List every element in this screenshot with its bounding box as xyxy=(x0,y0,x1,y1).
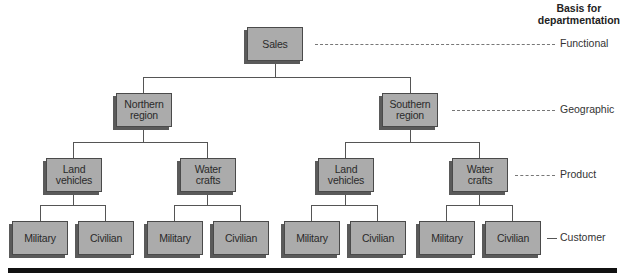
node-land-vehicles: Landvehicles xyxy=(46,158,102,192)
node-label: Civilian xyxy=(225,233,257,244)
node-label: Sales xyxy=(262,39,287,50)
node-military: Military xyxy=(419,221,475,255)
connector xyxy=(512,205,513,221)
connector xyxy=(479,142,480,158)
node-label: Civilian xyxy=(497,233,529,244)
node-military: Military xyxy=(284,221,340,255)
connector xyxy=(174,205,241,206)
node-civilian: Civilian xyxy=(350,221,406,255)
connector xyxy=(207,142,208,158)
node-label: Military xyxy=(24,233,56,244)
node-water-crafts: Watercrafts xyxy=(180,158,236,192)
connector xyxy=(446,205,447,221)
heading-line-2: departmentation xyxy=(538,14,620,26)
level-label-customer: Customer xyxy=(560,231,606,243)
connector xyxy=(345,142,480,143)
node-military: Military xyxy=(12,221,68,255)
connector xyxy=(410,77,411,93)
node-label: crafts xyxy=(468,174,492,186)
node-label: Military xyxy=(431,233,463,244)
connector xyxy=(377,205,378,221)
node-civilian: Civilian xyxy=(78,221,134,255)
connector xyxy=(143,77,410,78)
heading-line-1: Basis for xyxy=(538,2,620,14)
connector xyxy=(240,205,241,221)
connector xyxy=(105,205,106,221)
node-military: Military xyxy=(147,221,203,255)
level-label-functional: Functional xyxy=(560,37,608,49)
level-label-geographic: Geographic xyxy=(560,103,614,115)
node-sales: Sales xyxy=(247,27,303,61)
node-label: region xyxy=(396,109,424,121)
connector xyxy=(73,142,74,158)
connector xyxy=(174,205,175,221)
node-label: vehicles xyxy=(328,174,364,186)
node-label: region xyxy=(130,109,158,121)
node-label: Civilian xyxy=(90,233,122,244)
node-civilian: Civilian xyxy=(485,221,541,255)
connector xyxy=(446,205,513,206)
level-label-product: Product xyxy=(560,168,596,180)
connector xyxy=(40,205,41,221)
node-northern-region: Northernregion xyxy=(116,93,172,127)
connector xyxy=(345,142,346,158)
node-label: vehicles xyxy=(56,174,92,186)
connector xyxy=(311,205,312,221)
connector xyxy=(40,205,106,206)
leader-line-functional xyxy=(315,44,555,45)
connector xyxy=(311,205,378,206)
leader-line-geographic xyxy=(452,110,555,111)
node-civilian: Civilian xyxy=(213,221,269,255)
node-water-crafts: Watercrafts xyxy=(452,158,508,192)
connector xyxy=(73,142,208,143)
node-label: Civilian xyxy=(362,233,394,244)
node-label: Military xyxy=(296,233,328,244)
leader-line-customer xyxy=(547,238,557,239)
node-southern-region: Southernregion xyxy=(382,93,438,127)
connector xyxy=(143,77,144,93)
node-land-vehicles: Landvehicles xyxy=(318,158,374,192)
bottom-rule xyxy=(8,268,617,273)
heading-basis-for-departmentation: Basis for departmentation xyxy=(538,2,620,26)
node-label: Military xyxy=(159,233,191,244)
leader-line-product xyxy=(515,175,555,176)
node-label: crafts xyxy=(196,174,220,186)
